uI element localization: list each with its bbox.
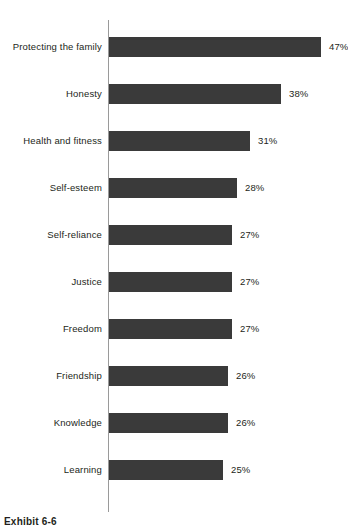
bar-row: Freedom27% — [0, 319, 348, 339]
value-label: 38% — [289, 84, 308, 104]
bar — [109, 319, 232, 339]
category-label: Freedom — [0, 319, 102, 339]
category-label: Honesty — [0, 84, 102, 104]
bar — [109, 272, 232, 292]
category-label: Self-esteem — [0, 178, 102, 198]
plot-area: Protecting the family47%Honesty38%Health… — [0, 20, 348, 512]
value-label: 27% — [240, 272, 259, 292]
value-label: 25% — [231, 460, 250, 480]
value-label: 31% — [258, 131, 277, 151]
category-label: Justice — [0, 272, 102, 292]
value-label: 47% — [329, 37, 348, 57]
value-label: 27% — [240, 225, 259, 245]
bar — [109, 37, 321, 57]
bar — [109, 178, 237, 198]
bar-row: Self-esteem28% — [0, 178, 348, 198]
bar — [109, 225, 232, 245]
bar-row: Honesty38% — [0, 84, 348, 104]
bar-row: Self-reliance27% — [0, 225, 348, 245]
category-label: Protecting the family — [0, 37, 102, 57]
category-label: Health and fitness — [0, 131, 102, 151]
category-label: Knowledge — [0, 413, 102, 433]
bar-row: Health and fitness31% — [0, 131, 348, 151]
bar — [109, 366, 228, 386]
bar-row: Justice27% — [0, 272, 348, 292]
bar — [109, 460, 223, 480]
value-label: 26% — [236, 413, 255, 433]
bar-row: Protecting the family47% — [0, 37, 348, 57]
bar-row: Friendship26% — [0, 366, 348, 386]
category-label: Friendship — [0, 366, 102, 386]
category-label: Self-reliance — [0, 225, 102, 245]
value-label: 27% — [240, 319, 259, 339]
bar-chart: Protecting the family47%Honesty38%Health… — [0, 0, 348, 528]
bar — [109, 413, 228, 433]
chart-caption: Exhibit 6-6 — [4, 516, 57, 527]
bar-row: Learning25% — [0, 460, 348, 480]
bar — [109, 84, 281, 104]
value-label: 28% — [245, 178, 264, 198]
category-label: Learning — [0, 460, 102, 480]
value-label: 26% — [236, 366, 255, 386]
bar-row: Knowledge26% — [0, 413, 348, 433]
bar — [109, 131, 250, 151]
